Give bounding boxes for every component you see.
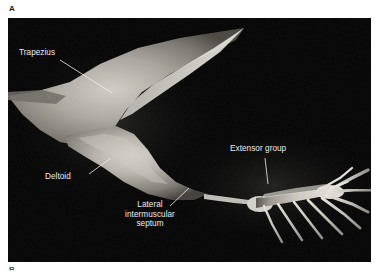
panel-letter-b: B xyxy=(9,266,15,273)
figure-panel-a: A xyxy=(0,0,379,273)
label-septum-line-2: intermuscular xyxy=(125,210,175,219)
label-septum-line-1: Lateral xyxy=(137,200,162,209)
panel-letter-a: A xyxy=(9,5,15,13)
label-extensor-group: Extensor group xyxy=(230,144,286,154)
label-deltoid: Deltoid xyxy=(45,172,71,182)
label-lateral-intermuscular-septum: Lateral intermuscular septum xyxy=(112,200,188,229)
label-septum-line-3: septum xyxy=(136,219,163,228)
specimen-photo-plate xyxy=(8,18,371,262)
bat-wing-dissection-photograph xyxy=(8,18,371,262)
label-trapezius: Trapezius xyxy=(19,48,55,58)
